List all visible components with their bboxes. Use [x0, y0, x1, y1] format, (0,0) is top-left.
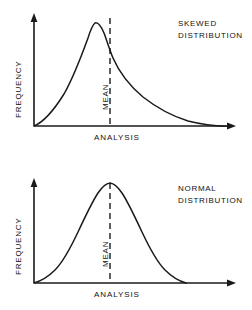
x-axis-label-skewed: ANALYSIS	[94, 133, 140, 144]
x-axis-arrow-icon-skewed	[227, 123, 236, 130]
x-axis-arrow-icon-normal	[227, 280, 236, 287]
chart-title-normal: NORMAL DISTRIBUTION	[178, 183, 243, 206]
chart-title-skewed: SKEWED DISTRIBUTION	[178, 18, 243, 41]
normal-chart-svg	[0, 155, 252, 310]
chart-title-skewed-line1: SKEWED	[178, 18, 243, 30]
distribution-comparison-figure: FREQUENCY MEAN ANALYSIS SKEWED DISTRIBUT…	[0, 0, 252, 310]
chart-panel-normal: FREQUENCY MEAN ANALYSIS NORMAL DISTRIBUT…	[0, 155, 252, 310]
y-axis-label-skewed: FREQUENCY	[14, 61, 25, 118]
chart-title-normal-line1: NORMAL	[178, 183, 243, 195]
mean-label-normal: MEAN	[101, 241, 112, 267]
y-axis-label-normal: FREQUENCY	[14, 218, 25, 275]
y-axis-arrow-icon-normal	[31, 178, 38, 187]
chart-panel-skewed: FREQUENCY MEAN ANALYSIS SKEWED DISTRIBUT…	[0, 0, 252, 155]
x-axis-label-normal: ANALYSIS	[94, 290, 140, 301]
y-axis-arrow-icon-skewed	[31, 13, 38, 22]
chart-title-normal-line2: DISTRIBUTION	[178, 195, 243, 207]
mean-label-skewed: MEAN	[101, 84, 112, 110]
chart-title-skewed-line2: DISTRIBUTION	[178, 30, 243, 42]
